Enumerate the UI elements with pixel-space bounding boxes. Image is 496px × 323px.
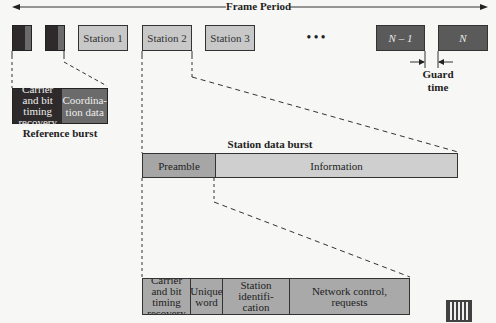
preamble-field-carrier: Carrier and bit timing recovery — [143, 279, 191, 314]
station-n-minus-1-slot: N – 1 — [376, 25, 425, 51]
reference-burst-detail: Carrier and bit timing recovery Coordina… — [12, 88, 108, 124]
preamble-field-unique-word: Unique word — [191, 279, 223, 314]
guard-time-label: Guard time — [418, 68, 458, 94]
field-information: Information — [216, 154, 457, 177]
station-data-burst-title: Station data burst — [220, 138, 320, 150]
qr-code-icon — [446, 300, 472, 322]
station-3-slot: Station 3 — [205, 25, 255, 51]
reference-burst-2 — [45, 25, 65, 51]
reference-burst-1 — [12, 25, 32, 51]
station-data-burst: Preamble Information — [142, 153, 458, 178]
preamble-field-network-control: Network control, requests — [290, 279, 409, 314]
station-1-slot: Station 1 — [78, 25, 128, 51]
preamble-detail: Carrier and bit timing recovery Unique w… — [142, 278, 410, 315]
station-n-slot: N — [438, 25, 488, 51]
ref-field-coordination: Coordina-tion data — [62, 89, 107, 123]
field-preamble: Preamble — [143, 154, 216, 177]
frame-period-label: Frame Period — [226, 0, 290, 12]
station-2-slot: Station 2 — [142, 25, 192, 51]
ellipsis: • • • — [296, 30, 336, 45]
preamble-field-station-id: Station identifi-cation — [223, 279, 290, 314]
ref-field-carrier: Carrier and bit timing recovery — [13, 89, 62, 123]
reference-burst-title: Reference burst — [12, 127, 108, 139]
